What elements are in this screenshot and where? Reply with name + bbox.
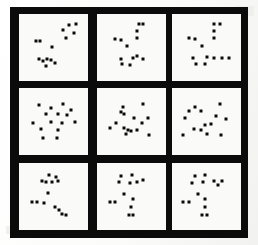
scatter-panel	[97, 88, 166, 155]
scatter-point	[200, 44, 203, 47]
scatter-point	[60, 121, 63, 124]
scatter-point	[125, 133, 128, 136]
scatter-point	[53, 205, 56, 208]
scatter-point	[213, 36, 216, 39]
scatter-point	[120, 57, 123, 60]
scatter-point	[204, 198, 207, 201]
scatter-point	[217, 184, 220, 187]
scatter-point	[195, 63, 198, 66]
scatter-point	[203, 63, 206, 66]
scatter-point	[108, 200, 111, 203]
scatter-point	[141, 121, 144, 124]
scatter-point	[126, 44, 129, 47]
scatter-point	[131, 56, 134, 59]
scatter-point	[212, 180, 215, 183]
scatter-point	[123, 113, 126, 116]
scatter-point	[39, 128, 42, 131]
scatter-point	[51, 45, 54, 48]
scatter-panel	[172, 88, 241, 155]
scatter-point	[130, 173, 133, 176]
scatter-point	[214, 115, 217, 118]
scatter-point	[220, 56, 223, 59]
scatter-point	[191, 57, 194, 60]
scatter-point	[65, 213, 68, 216]
scatter-point	[148, 134, 151, 137]
scatter-point	[129, 206, 132, 209]
scatter-point	[109, 127, 112, 130]
scatter-point	[187, 110, 190, 113]
scatter-point	[205, 133, 208, 136]
scatter-point	[213, 29, 216, 32]
scatter-point	[61, 212, 64, 215]
scatter-point	[38, 103, 41, 106]
scatter-point	[44, 180, 47, 183]
scatter-point	[56, 180, 59, 183]
scatter-point	[48, 173, 51, 176]
scatter-point	[38, 40, 41, 43]
scatter-point	[219, 103, 222, 106]
scatter-point	[113, 200, 116, 203]
scatter-point	[199, 129, 202, 132]
scatter-panel	[97, 163, 166, 230]
scatter-point	[182, 200, 185, 203]
scatter-point	[227, 56, 230, 59]
scatter-point	[34, 39, 37, 42]
scatter-point	[122, 105, 125, 108]
scatter-point	[122, 192, 125, 195]
scatter-panel-figure	[0, 0, 258, 245]
scatter-point	[56, 113, 59, 116]
scatter-point	[66, 113, 69, 116]
scatter-point	[142, 57, 145, 60]
scatter-point	[61, 29, 64, 32]
scatter-point	[142, 178, 145, 181]
scatter-point	[69, 109, 72, 112]
scatter-point	[136, 55, 139, 58]
scatter-panel	[172, 14, 241, 81]
scatter-point	[133, 116, 136, 119]
scatter-plot-area	[19, 163, 88, 230]
scatter-point	[129, 130, 132, 133]
scatter-plot-area	[19, 14, 88, 81]
scatter-point	[201, 213, 204, 216]
scatter-panel	[19, 14, 88, 81]
scatter-point	[115, 122, 118, 125]
scatter-point	[212, 56, 215, 59]
scatter-point	[49, 59, 52, 62]
scatter-point	[45, 64, 48, 67]
scatter-point	[128, 181, 131, 184]
scatter-point	[205, 56, 208, 59]
scatter-point	[53, 62, 56, 65]
scatter-point	[188, 200, 191, 203]
scatter-point	[190, 181, 193, 184]
scatter-point	[45, 112, 48, 115]
scatter-point	[132, 213, 135, 216]
scatter-point	[181, 133, 184, 136]
scatter-point	[136, 37, 139, 40]
scatter-point	[141, 103, 144, 106]
scatter-point	[129, 63, 132, 66]
scatter-point	[121, 63, 124, 66]
scatter-point	[41, 59, 44, 62]
scatter-point	[55, 176, 58, 179]
scatter-point	[147, 116, 150, 119]
scatter-point	[57, 129, 60, 132]
scatter-point	[192, 128, 195, 131]
scatter-point	[193, 105, 196, 108]
scatter-point	[35, 200, 38, 203]
scatter-point	[201, 181, 204, 184]
scatter-point	[37, 57, 40, 60]
scatter-point	[193, 174, 196, 177]
scatter-point	[193, 37, 196, 40]
scatter-point	[136, 129, 139, 132]
scatter-panel	[172, 163, 241, 230]
scatter-point	[187, 37, 190, 40]
scatter-point	[224, 117, 227, 120]
scatter-point	[47, 192, 50, 195]
scatter-point	[51, 180, 54, 183]
scatter-panel	[19, 163, 88, 230]
scatter-point	[119, 38, 122, 41]
scatter-point	[203, 123, 206, 126]
scatter-point	[56, 137, 59, 140]
scatter-point	[220, 134, 223, 137]
scatter-point	[40, 179, 43, 182]
